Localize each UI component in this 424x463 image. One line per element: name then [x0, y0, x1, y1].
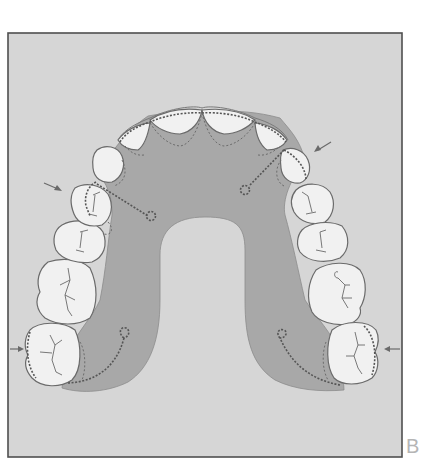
tooth-right-premolar-1	[292, 184, 334, 223]
tooth-left-molar-2	[25, 323, 80, 386]
tooth-right-premolar-2	[298, 223, 348, 262]
dental-arch-diagram	[0, 0, 424, 463]
panel-label: B	[406, 436, 419, 456]
tooth-left-premolar-1	[71, 185, 111, 226]
tooth-left-canine	[93, 147, 124, 183]
tooth-right-molar-2	[328, 323, 379, 385]
tooth-right-molar-1	[309, 263, 366, 324]
tooth-left-premolar-2	[54, 221, 105, 263]
